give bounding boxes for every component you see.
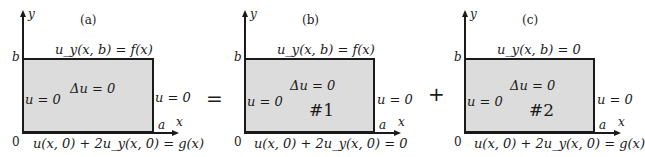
origin-label: 0 (234, 136, 242, 148)
y-axis-arrow-icon (20, 10, 26, 17)
y-axis-label: y (28, 8, 35, 20)
left-boundary-condition: u = 0 (25, 93, 61, 106)
bottom-boundary-condition: u(x, 0) + 2u_y(x, 0) = g(x) (33, 137, 204, 150)
panel-label: (a) (80, 14, 97, 26)
bottom-boundary-condition: u(x, 0) + 2u_y(x, 0) = g(x) (474, 137, 645, 150)
corner-a-label: a (158, 119, 165, 131)
x-axis-label: x (618, 116, 625, 128)
equals-sign: = (206, 86, 223, 110)
bottom-boundary-condition: u(x, 0) + 2u_y(x, 0) = 0 (254, 137, 407, 150)
y-axis-arrow-icon (462, 10, 468, 17)
pde-equation: Δu = 0 (70, 82, 115, 95)
right-boundary-condition: u = 0 (377, 93, 413, 106)
y-axis-arrow-icon (242, 10, 248, 17)
left-boundary-condition: u = 0 (467, 95, 503, 108)
pde-equation: Δu = 0 (290, 79, 335, 92)
problem-number: #1 (309, 102, 334, 119)
left-boundary-condition: u = 0 (247, 95, 283, 108)
right-boundary-condition: u = 0 (597, 93, 633, 106)
panel-a: y (a) x b a 0 u_y(x, b) = f(x) u = 0 u =… (0, 0, 200, 157)
x-axis-arrow-icon (172, 130, 179, 136)
top-boundary-condition: u_y(x, b) = f(x) (277, 43, 375, 56)
x-axis-label: x (176, 116, 183, 128)
top-boundary-condition: u_y(x, b) = 0 (497, 43, 581, 56)
right-boundary-condition: u = 0 (155, 91, 191, 104)
y-axis-label: y (250, 8, 257, 20)
problem-number: #2 (529, 102, 554, 119)
panel-label: (b) (302, 14, 319, 26)
top-boundary-condition: u_y(x, b) = f(x) (55, 43, 153, 56)
panel-label: (c) (522, 14, 538, 26)
x-axis (464, 132, 616, 134)
x-axis (244, 132, 396, 134)
x-axis (22, 132, 174, 134)
panel-c: y (c) x b a 0 u_y(x, b) = 0 u = 0 u = 0 … (442, 0, 636, 157)
corner-b-label: b (234, 51, 242, 63)
origin-label: 0 (12, 136, 20, 148)
y-axis-label: y (470, 8, 477, 20)
corner-a-label: a (379, 119, 386, 131)
panel-b: y (b) x b a 0 u_y(x, b) = f(x) u = 0 u =… (222, 0, 422, 157)
pde-equation: Δu = 0 (510, 79, 555, 92)
x-axis-arrow-icon (394, 130, 401, 136)
corner-b-label: b (454, 51, 462, 63)
x-axis-arrow-icon (614, 130, 621, 136)
origin-label: 0 (454, 136, 462, 148)
corner-b-label: b (12, 51, 20, 63)
x-axis-label: x (398, 116, 405, 128)
corner-a-label: a (599, 119, 606, 131)
